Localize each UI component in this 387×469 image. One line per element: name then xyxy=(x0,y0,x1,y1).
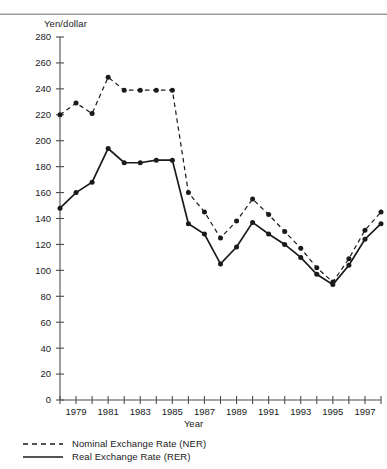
data-point xyxy=(186,190,191,195)
x-axis-tick-label: 1995 xyxy=(322,406,343,417)
data-point xyxy=(58,112,63,117)
data-point xyxy=(138,160,143,165)
data-point xyxy=(202,232,207,237)
data-point xyxy=(90,111,95,116)
data-point xyxy=(170,158,175,163)
y-axis-tick-label: 160 xyxy=(35,187,51,198)
data-point xyxy=(234,245,239,250)
y-axis-tick-label: 260 xyxy=(35,57,51,68)
x-axis-title: Year xyxy=(0,418,387,429)
data-point xyxy=(58,206,63,211)
data-point xyxy=(122,88,127,93)
data-point xyxy=(346,256,351,261)
data-point xyxy=(282,242,287,247)
y-axis-tick-label: 220 xyxy=(35,109,51,120)
chart-svg: 0204060801001201401601802002202402602801… xyxy=(0,0,387,469)
x-axis-tick-label: 1983 xyxy=(130,406,151,417)
data-point xyxy=(298,255,303,260)
y-axis-tick-label: 180 xyxy=(35,161,51,172)
legend-label-rer: Real Exchange Rate (RER) xyxy=(72,451,191,462)
data-point xyxy=(186,221,191,226)
x-axis-tick-label: 1997 xyxy=(354,406,375,417)
y-axis-tick-label: 140 xyxy=(35,213,51,224)
x-axis-tick-label: 1985 xyxy=(162,406,183,417)
data-point xyxy=(106,146,111,151)
y-axis-tick-label: 0 xyxy=(46,394,51,405)
y-axis-tick-label: 40 xyxy=(40,343,51,354)
data-point xyxy=(282,229,287,234)
data-point xyxy=(314,265,319,270)
x-axis-tick-label: 1989 xyxy=(226,406,247,417)
data-point xyxy=(362,237,367,242)
legend-label-ner: Nominal Exchange Rate (NER) xyxy=(72,438,206,449)
y-axis-tick-label: 80 xyxy=(40,291,51,302)
legend-key-dashed-icon xyxy=(22,439,64,449)
data-point xyxy=(298,246,303,251)
data-point xyxy=(106,75,111,80)
data-point xyxy=(314,272,319,277)
y-axis-tick-label: 120 xyxy=(35,239,51,250)
data-point xyxy=(170,88,175,93)
chart-plot-area: 0204060801001201401601802002202402602801… xyxy=(0,0,387,469)
data-point xyxy=(266,212,271,217)
x-axis-tick-label: 1981 xyxy=(98,406,119,417)
data-point xyxy=(362,228,367,233)
y-axis-tick-label: 60 xyxy=(40,317,51,328)
data-point xyxy=(74,190,79,195)
x-axis-tick-label: 1993 xyxy=(290,406,311,417)
legend-item-rer: Real Exchange Rate (RER) xyxy=(22,450,206,463)
x-axis-tick-label: 1991 xyxy=(258,406,279,417)
y-axis-tick-label: 280 xyxy=(35,31,51,42)
data-point xyxy=(379,221,384,226)
data-point xyxy=(266,232,271,237)
data-point xyxy=(250,220,255,225)
data-point xyxy=(346,263,351,268)
data-point xyxy=(218,235,223,240)
y-axis-tick-label: 100 xyxy=(35,265,51,276)
data-point xyxy=(234,219,239,224)
data-point xyxy=(154,158,159,163)
series-line-ner xyxy=(60,77,381,282)
legend-key-solid-icon xyxy=(22,452,64,462)
y-axis-tick-label: 240 xyxy=(35,83,51,94)
data-point xyxy=(250,197,255,202)
y-axis-tick-label: 20 xyxy=(40,368,51,379)
x-axis-tick-label: 1987 xyxy=(194,406,215,417)
data-point xyxy=(90,180,95,185)
data-point xyxy=(138,88,143,93)
data-point xyxy=(74,101,79,106)
legend-item-ner: Nominal Exchange Rate (NER) xyxy=(22,437,206,450)
data-point xyxy=(202,210,207,215)
data-point xyxy=(379,210,384,215)
data-point xyxy=(330,282,335,287)
y-axis-tick-label: 200 xyxy=(35,135,51,146)
data-point xyxy=(122,160,127,165)
data-point xyxy=(154,88,159,93)
chart-legend: Nominal Exchange Rate (NER) Real Exchang… xyxy=(22,437,206,463)
x-axis-tick-label: 1979 xyxy=(65,406,86,417)
data-point xyxy=(218,261,223,266)
